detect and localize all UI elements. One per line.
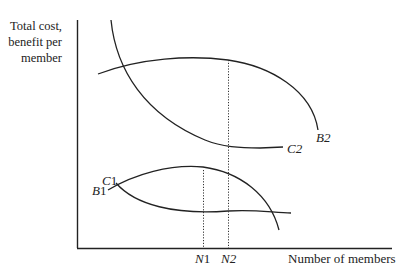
y-axis-label-line-3: member xyxy=(0,50,62,66)
label-b2: B2 xyxy=(316,131,330,144)
label-c2-digit: 2 xyxy=(296,141,303,156)
label-b2-letter: B xyxy=(316,130,324,145)
label-n2-digit: 2 xyxy=(230,251,237,266)
y-axis-label: Total cost, benefit per member xyxy=(0,18,62,66)
y-axis-label-line-2: benefit per xyxy=(0,34,62,50)
label-b1: B1 xyxy=(92,184,106,197)
diagram-canvas: Total cost, benefit per member C1 B1 C2 … xyxy=(0,0,398,266)
label-n1-letter: N xyxy=(195,251,204,266)
label-n2: N2 xyxy=(221,252,236,265)
y-axis-label-line-1: Total cost, xyxy=(0,18,62,34)
label-n2-letter: N xyxy=(221,251,230,266)
curve-c2 xyxy=(111,20,283,148)
label-b2-digit: 2 xyxy=(324,130,331,145)
label-n1: N1 xyxy=(195,252,210,265)
label-b1-letter: B xyxy=(92,183,100,198)
curve-b1 xyxy=(108,166,279,230)
curve-b2 xyxy=(98,58,318,130)
label-c2-letter: C xyxy=(287,141,296,156)
label-b1-digit: 1 xyxy=(100,183,107,198)
label-n1-digit: 1 xyxy=(204,251,211,266)
label-c1-digit: 1 xyxy=(111,173,118,188)
label-c2: C2 xyxy=(287,142,302,155)
x-axis-label: Number of members xyxy=(288,251,396,266)
